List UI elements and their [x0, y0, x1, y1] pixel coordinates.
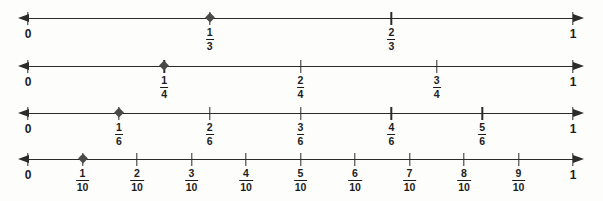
tick-fourths-2 — [300, 60, 301, 73]
tick-tenths-4 — [245, 153, 246, 166]
tick-label-tenths-4: 410 — [239, 168, 253, 194]
fraction-denominator: 10 — [294, 181, 308, 192]
tick-thirds-3 — [572, 12, 573, 25]
fraction-numerator: 7 — [403, 168, 417, 179]
tick-sixths-4 — [391, 107, 392, 120]
fraction-label: 910 — [512, 168, 526, 192]
fraction-numerator: 4 — [387, 122, 395, 133]
tick-label-thirds-0: 0 — [25, 28, 32, 40]
diamond-marker-fourths — [159, 61, 169, 71]
fraction-label: 210 — [130, 168, 144, 192]
tick-tenths-3 — [191, 153, 192, 166]
fraction-denominator: 10 — [76, 181, 90, 192]
arrow-right-icon — [573, 62, 584, 70]
diamond-marker-tenths — [78, 154, 88, 164]
fraction-denominator: 10 — [403, 181, 417, 192]
fraction-numerator: 2 — [297, 75, 305, 86]
tick-tenths-8 — [463, 153, 464, 166]
fraction-numerator: 8 — [457, 168, 471, 179]
tick-tenths-7 — [409, 153, 410, 166]
tick-label-tenths-2: 210 — [130, 168, 144, 194]
number-lines-figure: 0132310142434101626364656101102103104105… — [0, 0, 603, 201]
fraction-label: 310 — [185, 168, 199, 192]
tick-fourths-3 — [436, 60, 437, 73]
fraction-numerator: 3 — [297, 122, 305, 133]
fraction-numerator: 1 — [206, 27, 214, 38]
tick-tenths-2 — [136, 153, 137, 166]
tick-label-fourths-4: 1 — [570, 76, 577, 88]
tick-fourths-4 — [572, 60, 573, 73]
fraction-numerator: 3 — [185, 168, 199, 179]
tick-sixths-0 — [27, 107, 28, 120]
tick-tenths-0 — [27, 153, 28, 166]
tick-label-tenths-6: 610 — [348, 168, 362, 194]
tick-label-tenths-1: 110 — [76, 168, 90, 194]
fraction-denominator: 10 — [239, 181, 253, 192]
tick-label-tenths-10: 1 — [570, 169, 577, 181]
tick-label-thirds-3: 1 — [570, 28, 577, 40]
fraction-label: 610 — [348, 168, 362, 192]
arrow-right-icon — [573, 109, 584, 117]
fraction-label: 710 — [403, 168, 417, 192]
fraction-numerator: 2 — [130, 168, 144, 179]
tick-label-tenths-5: 510 — [294, 168, 308, 194]
tick-label-tenths-9: 910 — [512, 168, 526, 194]
fraction-numerator: 5 — [478, 122, 486, 133]
number-line-sixths: 016263646561 — [0, 95, 603, 141]
tick-label-tenths-0: 0 — [25, 169, 32, 181]
tick-label-sixths-0: 0 — [25, 123, 32, 135]
number-line-tenths: 01102103104105106107108109101 — [0, 141, 603, 201]
fraction-numerator: 4 — [239, 168, 253, 179]
fraction-denominator: 10 — [130, 181, 144, 192]
tick-label-tenths-3: 310 — [185, 168, 199, 194]
fraction-numerator: 1 — [115, 122, 123, 133]
fraction-numerator: 2 — [206, 122, 214, 133]
tick-fourths-0 — [27, 60, 28, 73]
tick-tenths-9 — [518, 153, 519, 166]
fraction-label: 810 — [457, 168, 471, 192]
fraction-numerator: 1 — [160, 75, 168, 86]
tick-sixths-3 — [300, 107, 301, 120]
tick-thirds-0 — [27, 12, 28, 25]
tick-tenths-10 — [572, 153, 573, 166]
tick-tenths-6 — [354, 153, 355, 166]
fraction-denominator: 10 — [185, 181, 199, 192]
fraction-denominator: 10 — [348, 181, 362, 192]
tick-label-fourths-0: 0 — [25, 76, 32, 88]
tick-sixths-5 — [481, 107, 482, 120]
fraction-label: 110 — [76, 168, 90, 192]
tick-label-tenths-8: 810 — [457, 168, 471, 194]
fraction-numerator: 9 — [512, 168, 526, 179]
fraction-label: 410 — [239, 168, 253, 192]
fraction-numerator: 1 — [76, 168, 90, 179]
fraction-numerator: 5 — [294, 168, 308, 179]
fraction-numerator: 3 — [433, 75, 441, 86]
fraction-denominator: 10 — [457, 181, 471, 192]
fraction-denominator: 10 — [512, 181, 526, 192]
arrow-right-icon — [573, 155, 584, 163]
tick-label-sixths-6: 1 — [570, 123, 577, 135]
tick-tenths-5 — [300, 153, 301, 166]
number-line-fourths: 01424341 — [0, 48, 603, 95]
fraction-numerator: 2 — [387, 27, 395, 38]
tick-thirds-2 — [391, 12, 392, 25]
diamond-marker-sixths — [114, 108, 124, 118]
axis-line-thirds — [28, 18, 573, 19]
arrow-right-icon — [573, 14, 584, 22]
fraction-label: 510 — [294, 168, 308, 192]
number-line-thirds: 013231 — [0, 0, 603, 50]
fraction-numerator: 6 — [348, 168, 362, 179]
tick-label-tenths-7: 710 — [403, 168, 417, 194]
tick-sixths-6 — [572, 107, 573, 120]
tick-sixths-2 — [209, 107, 210, 120]
diamond-marker-thirds — [205, 13, 215, 23]
